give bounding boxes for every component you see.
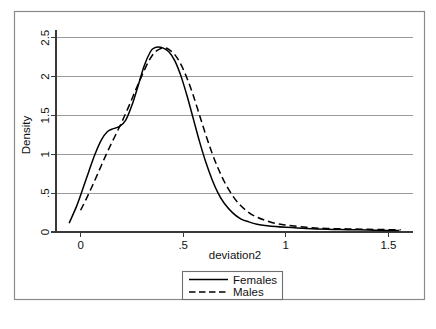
density-plot-figure: 0.511.522.5 0.511.5 Density deviation2 F… — [0, 0, 436, 329]
y-tick-label: 1.5 — [39, 107, 51, 123]
x-axis-title: deviation2 — [209, 249, 261, 261]
legend-label-females: Females — [233, 274, 277, 286]
x-tick-label: .5 — [178, 239, 188, 251]
y-tick-label: 0 — [39, 229, 51, 235]
x-tick-label: 0 — [77, 239, 83, 251]
y-axis-title: Density — [20, 116, 32, 155]
y-tick-label: .5 — [39, 188, 51, 198]
legend-label-males: Males — [233, 286, 264, 298]
chart-legend: Females Males — [183, 272, 283, 300]
y-tick-label: 1 — [39, 151, 51, 157]
x-tick-label: 1 — [283, 239, 289, 251]
y-tick-label: 2 — [39, 73, 51, 79]
x-tick-label: 1.5 — [380, 239, 396, 251]
y-tick-label: 2.5 — [39, 30, 51, 46]
